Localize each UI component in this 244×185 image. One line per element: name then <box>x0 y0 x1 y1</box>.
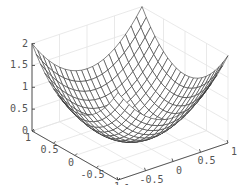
z-tick-label: 1 <box>22 81 28 92</box>
y-tick-label: 1 <box>231 146 237 157</box>
y-tick-label: 0 <box>176 165 182 176</box>
z-tick-label: 0.5 <box>10 103 28 114</box>
surface-plot: 00.511.5210.50-0.5-1-1-0.500.51 <box>0 0 244 185</box>
mesh-cell <box>32 44 42 61</box>
z-tick-label: 2 <box>22 38 28 49</box>
x-tick-label: 1 <box>25 132 31 143</box>
y-tick-label: -1 <box>118 183 130 185</box>
x-tick-label: 0 <box>68 157 74 168</box>
x-tick-label: -0.5 <box>80 169 104 180</box>
x-tick-label: 0.5 <box>40 144 58 155</box>
z-tick-label: 1.5 <box>10 59 28 70</box>
y-tick-label: 0.5 <box>197 155 215 166</box>
surface-mesh <box>32 7 228 143</box>
y-tick-label: -0.5 <box>139 174 163 185</box>
